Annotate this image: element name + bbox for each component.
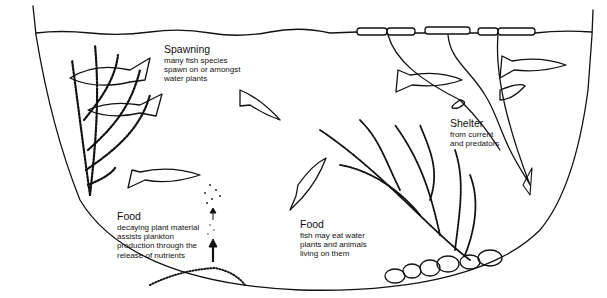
label-spawning: Spawning many fish species spawn on or a… [164,43,241,84]
pond-diagram: Spawning many fish species spawn on or a… [0,0,607,298]
label-food-eat: Food fish may eat water plants and anima… [300,218,367,259]
label-title: Shelter [450,117,499,129]
label-description: from current and predators [450,130,499,148]
label-shelter: Shelter from current and predators [450,117,499,148]
label-description: decaying plant material assists plankton… [117,223,199,260]
label-description: fish may eat water plants and animals li… [300,231,367,259]
label-food-decay: Food decaying plant material assists pla… [117,210,199,260]
label-description: many fish species spawn on or amongst wa… [164,56,241,84]
label-title: Spawning [164,43,241,55]
floating-leaves [357,27,535,35]
up-arrows [209,208,217,262]
label-title: Food [300,218,367,230]
label-title: Food [117,210,199,222]
